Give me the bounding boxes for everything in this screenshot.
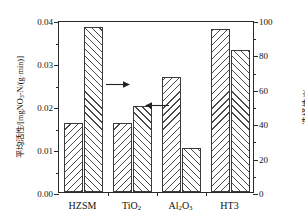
plot-area: 0.000.010.020.030.04020406080100 (58, 21, 254, 193)
y-axis-left-title-suffix: -N/(g·min)] (16, 56, 25, 95)
y-axis-left-tick-label: 0.00 (37, 189, 53, 199)
x-axis-tick (108, 192, 109, 196)
y-axis-left-title-subscript: 3 (18, 95, 25, 98)
bar-selectivity-2 (182, 148, 201, 192)
bar-chart: 平均活性/[mgNO3-N/(g·min)] 选择性/% 0.000.010.0… (0, 0, 305, 224)
x-axis-tick (206, 192, 207, 196)
x-axis-tick-label-ht3: HT3 (220, 200, 238, 211)
y-axis-left-tick-label: 0.01 (37, 146, 53, 156)
y-axis-right-tick-label: 60 (259, 86, 268, 96)
y-axis-right-title: 选择性/% (299, 47, 305, 167)
y-axis-right-tick-label: 80 (259, 51, 268, 61)
y-axis-right-tick-label: 40 (259, 120, 268, 130)
y-axis-left-tick (54, 65, 59, 66)
bar-activity-3 (211, 29, 230, 192)
y-axis-right-tick (253, 56, 258, 57)
y-axis-left-title: 平均活性/[mgNO3-N/(g·min)] (13, 27, 25, 187)
annotation-arrow-left (145, 101, 169, 110)
y-axis-right-tick-label: 0 (259, 189, 264, 199)
y-axis-left-title-prefix: 平均活性/[mgNO (16, 98, 25, 158)
y-axis-right-minor-tick (253, 74, 256, 75)
bar-activity-0 (64, 123, 83, 192)
y-axis-left-minor-tick (56, 87, 59, 88)
y-axis-left-tick-label: 0.04 (37, 17, 53, 27)
y-axis-right-tick (253, 160, 258, 161)
y-axis-left-tick (54, 194, 59, 195)
y-axis-left-minor-tick (56, 173, 59, 174)
x-axis-tick-label-al2o3: Al2O3 (168, 200, 192, 211)
y-axis-left-tick (54, 22, 59, 23)
bar-activity-1 (113, 123, 132, 192)
bar-selectivity-1 (133, 106, 152, 192)
y-axis-right-minor-tick (253, 177, 256, 178)
annotation-arrow-right (106, 80, 130, 89)
y-axis-left-minor-tick (56, 130, 59, 131)
bar-selectivity-0 (84, 27, 103, 192)
y-axis-right-tick (253, 125, 258, 126)
x-axis-tick (157, 192, 158, 196)
y-axis-right-minor-tick (253, 142, 256, 143)
x-axis-tick-label-tio2: TiO2 (122, 200, 141, 211)
y-axis-right-minor-tick (253, 39, 256, 40)
y-axis-left-tick-label: 0.03 (37, 60, 53, 70)
y-axis-left-minor-tick (56, 44, 59, 45)
y-axis-right-tick-label: 100 (259, 17, 273, 27)
y-axis-right-minor-tick (253, 108, 256, 109)
x-axis-tick-label-hzsm: HZSM (69, 200, 97, 211)
y-axis-left-tick-label: 0.02 (37, 103, 53, 113)
y-axis-right-tick (253, 22, 258, 23)
y-axis-right-tick-label: 20 (259, 155, 268, 165)
y-axis-left-tick (54, 108, 59, 109)
y-axis-right-tick (253, 91, 258, 92)
bar-activity-2 (162, 77, 181, 192)
bar-selectivity-3 (231, 50, 250, 192)
y-axis-right-tick (253, 194, 258, 195)
y-axis-left-tick (54, 151, 59, 152)
